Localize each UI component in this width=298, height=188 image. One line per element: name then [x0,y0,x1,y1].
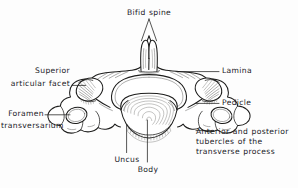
label-tubercles-line1: Anterior and posterior [196,127,298,136]
label-foramen-transversarium-line2: transversarium [1,121,71,130]
label-superior-articular-facet-line2: articular facet [0,79,70,88]
label-body: Body [128,165,168,174]
label-pedicle: Pedicle [222,98,282,107]
vertebra-illustration: .o { fill:none; stroke:#1d1d1c; stroke-w… [0,0,298,188]
label-bifid-spine: Bifid spine [108,8,190,17]
label-superior-articular-facet-line1: Superior [4,66,70,75]
label-lamina: Lamina [222,66,282,75]
label-tubercles-line2: tubercles of the [196,137,298,146]
label-uncus: Uncus [106,155,148,164]
bifid-spinous-process [139,40,160,73]
label-foramen-transversarium-line1: Foramen [0,109,44,118]
cervical-vertebra-figure: .o { fill:none; stroke:#1d1d1c; stroke-w… [0,0,298,188]
vertebral-body [121,93,178,142]
label-tubercles-line3: transverse process [196,147,298,156]
